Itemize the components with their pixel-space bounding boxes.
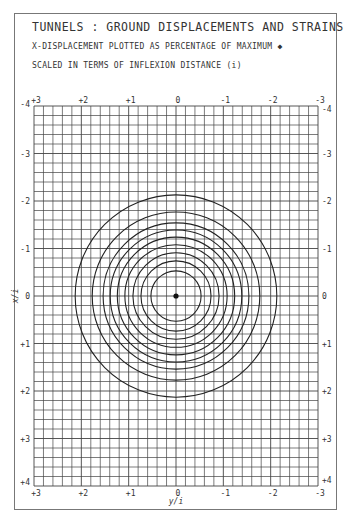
x-tick-top: -1 [221,96,231,105]
y-tick-right: +2 [322,387,332,396]
y-tick-left: +4 [20,478,30,487]
y-tick-left: -3 [20,150,30,159]
y-tick-left: -4 [20,100,30,109]
x-tick-top: +3 [31,96,41,105]
y-tick-right: -4 [322,105,332,114]
y-tick-left: +2 [20,387,30,396]
x-tick-top: +2 [79,96,89,105]
y-tick-left: +1 [20,340,30,349]
y-axis-label: x/i [11,289,20,304]
x-tick-top: +1 [126,96,136,105]
y-tick-right: +1 [322,340,332,349]
x-axis-label: y/i [168,497,183,506]
x-tick-bottom: -3 [315,489,325,498]
y-tick-right: -3 [322,150,332,159]
y-tick-left: +3 [20,435,30,444]
x-tick-top: -2 [268,96,278,105]
y-tick-right: -2 [322,197,332,206]
x-tick-bottom: +2 [79,489,89,498]
center-marker [173,293,178,298]
x-tick-top: -3 [315,96,325,105]
x-tick-bottom: -1 [221,489,231,498]
y-tick-left: -1 [20,245,30,254]
y-tick-right: 0 [322,292,327,301]
plot-area: +3+2+10-1-2-3+3+2+10-1-2-3-4-3-2-10+1+2+… [0,0,354,517]
x-tick-top: 0 [176,96,181,105]
y-tick-right: +4 [322,476,332,485]
y-tick-right: +3 [322,435,332,444]
x-tick-bottom: -2 [268,489,278,498]
y-tick-left: -2 [20,197,30,206]
x-tick-bottom: +3 [31,489,41,498]
y-tick-right: -1 [322,245,332,254]
x-tick-bottom: +1 [126,489,136,498]
y-tick-left: 0 [25,292,30,301]
